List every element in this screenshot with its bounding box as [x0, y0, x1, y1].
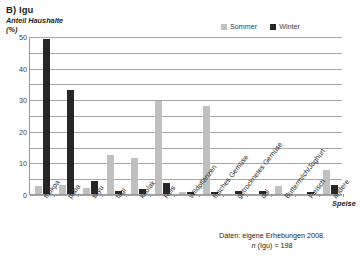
x-tickmark — [78, 194, 79, 197]
sample-size-value: (Igu) = 198 — [256, 241, 293, 250]
x-tickmark — [295, 194, 296, 197]
source-note: Daten: eigene Erhebungen 2008. n (Igu) =… — [192, 231, 352, 250]
bar-winter — [43, 39, 50, 194]
x-tickmark — [319, 194, 320, 197]
bar-group — [78, 37, 102, 194]
bar-group — [126, 37, 150, 194]
bar-group — [270, 37, 294, 194]
bar-group — [318, 37, 342, 194]
chart-container: B) Igu Anteil Haushalte (%) Sommer Winte… — [0, 0, 360, 266]
y-tick-label: 20 — [11, 128, 27, 137]
bar-group — [30, 37, 54, 194]
y-tick-label: 10 — [11, 159, 27, 168]
legend-label-sommer: Sommer — [230, 22, 257, 31]
bar-group — [54, 37, 78, 194]
bar-group — [150, 37, 174, 194]
x-tickmark — [343, 194, 344, 197]
legend-swatch-sommer — [221, 24, 227, 30]
y-axis-label: Anteil Haushalte (%) — [6, 17, 76, 34]
bar-sommer — [107, 155, 114, 195]
bar-sommer — [155, 101, 162, 194]
source-line-2: n (Igu) = 198 — [192, 241, 352, 251]
legend-label-winter: Winter — [279, 22, 300, 31]
source-line-1: Daten: eigene Erhebungen 2008. — [192, 231, 352, 241]
bar-group — [174, 37, 198, 194]
chart-legend: Sommer Winter — [221, 22, 300, 31]
x-tickmark — [174, 194, 175, 197]
bar-sommer — [35, 186, 42, 194]
bar-sommer — [83, 188, 90, 194]
x-tickmark — [126, 194, 127, 197]
x-tickmark — [223, 194, 224, 197]
y-tick-label: 40 — [11, 65, 27, 74]
bar-series-layer — [30, 37, 342, 194]
legend-item-sommer: Sommer — [221, 22, 257, 31]
x-axis-title: Speise — [332, 199, 356, 208]
legend-item-winter: Winter — [270, 22, 300, 31]
bar-sommer — [131, 158, 138, 194]
plot-area — [29, 37, 342, 195]
bar-sommer — [179, 192, 186, 194]
legend-swatch-winter — [270, 24, 276, 30]
bar-winter — [67, 90, 74, 194]
x-tickmark — [54, 194, 55, 197]
x-tickmark — [150, 194, 151, 197]
x-tickmark — [271, 194, 272, 197]
bar-sommer — [275, 186, 282, 194]
y-tick-label: 50 — [11, 33, 27, 42]
bar-group — [102, 37, 126, 194]
y-tick-label: 0 — [11, 191, 27, 200]
chart-title: B) Igu — [6, 4, 34, 15]
x-tickmark — [102, 194, 103, 197]
x-tickmark — [247, 194, 248, 197]
y-tick-label: 30 — [11, 96, 27, 105]
x-tickmark — [199, 194, 200, 197]
